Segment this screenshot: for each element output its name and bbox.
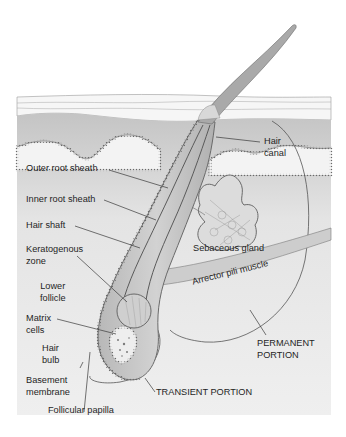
label-sebaceous-gland: Sebaceous gland [193, 243, 264, 255]
label-outer-root-sheath: Outer root sheath [26, 163, 98, 175]
hair-follicle-diagram [0, 0, 346, 437]
label-transient-portion: TRANSIENT PORTION [156, 387, 252, 399]
label-permanent-portion: PERMANENT PORTION [257, 338, 315, 361]
label-follicular-papilla: Follicular papilla [48, 405, 114, 417]
label-keratogenous-zone: Keratogenous zone [26, 244, 83, 267]
label-hair-bulb: Hair bulb [42, 343, 59, 366]
label-hair-canal: Hair canal [264, 136, 286, 159]
hair-bulb [110, 327, 136, 363]
label-lower-follicle: Lower follicle [40, 281, 66, 304]
label-inner-root-sheath: Inner root sheath [26, 194, 95, 206]
label-hair-shaft: Hair shaft [26, 220, 65, 232]
label-matrix-cells: Matrix cells [26, 313, 51, 336]
label-basement-membrane: Basement membrane [26, 375, 70, 398]
